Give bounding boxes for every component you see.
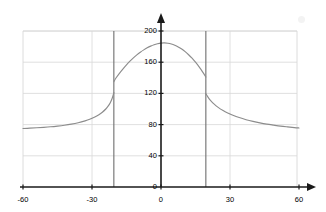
chart-figure: 04080120160200-60-3003060	[0, 0, 326, 212]
scan-artifact	[298, 16, 305, 23]
plot-frame	[23, 31, 297, 187]
y-tick-label-120: 120	[144, 88, 157, 97]
asymptote-lines	[114, 31, 206, 187]
axis-lines	[20, 13, 316, 191]
x-tick-label-60: 60	[284, 195, 314, 204]
y-tick-label-200: 200	[144, 26, 157, 35]
x-tick-label-neg30: -30	[77, 195, 107, 204]
y-tick-label-0: 0	[153, 182, 157, 191]
x-tick-label-30: 30	[215, 195, 245, 204]
x-tick-label-0: 0	[146, 195, 176, 204]
y-tick-label-160: 160	[144, 57, 157, 66]
y-tick-label-40: 40	[148, 151, 157, 160]
chart-canvas	[0, 0, 326, 212]
y-tick-label-80: 80	[148, 120, 157, 129]
gridlines	[23, 31, 297, 187]
x-tick-label-neg60: -60	[8, 195, 38, 204]
